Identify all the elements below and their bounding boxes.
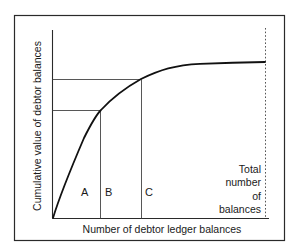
zone-label-a: A [81, 186, 89, 198]
total-label-line-3: of [252, 190, 261, 202]
zone-label-b: B [105, 186, 112, 198]
x-axis-label: Number of debtor ledger balances [83, 223, 242, 235]
total-label-line-4: balances [219, 203, 261, 215]
y-axis-label: Cumulative value of debtor balances [31, 41, 43, 211]
zone-label-c: C [145, 186, 153, 198]
total-label-line-2: number [225, 176, 261, 188]
diagram-canvas: A B C Total number of balances Number of… [0, 0, 296, 249]
total-label-line-1: Total [239, 163, 261, 175]
